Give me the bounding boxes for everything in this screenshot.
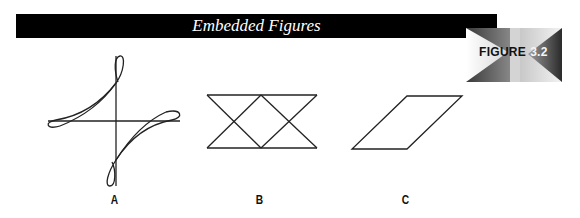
figure-c-icon [352, 96, 462, 149]
figure-c-label: C [402, 193, 409, 207]
figures-canvas [0, 0, 580, 218]
figure-b-label: B [256, 193, 263, 207]
figure-b-icon [207, 95, 317, 148]
figure-a-label: A [111, 193, 118, 207]
figure-a-icon [48, 56, 180, 186]
